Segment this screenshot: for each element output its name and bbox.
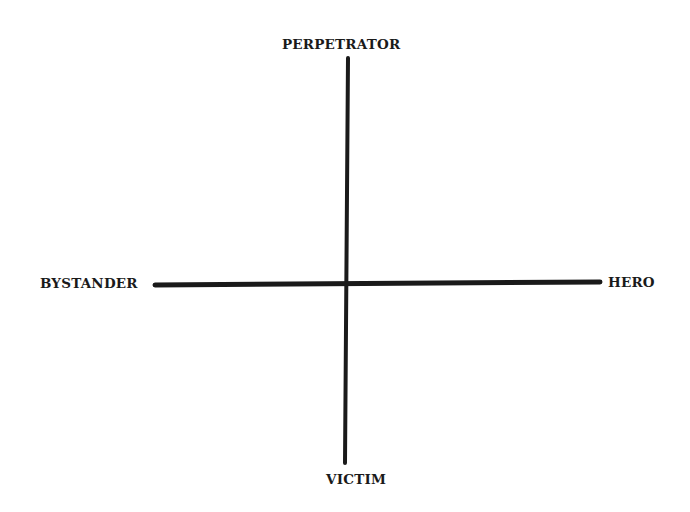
label-hero: HERO xyxy=(608,274,655,290)
label-perpetrator: PERPETRATOR xyxy=(282,36,400,52)
label-victim: VICTIM xyxy=(326,471,386,487)
axes-diagram xyxy=(0,0,690,512)
horizontal-axis xyxy=(155,282,600,285)
label-bystander: BYSTANDER xyxy=(40,275,138,291)
vertical-axis xyxy=(345,58,348,463)
